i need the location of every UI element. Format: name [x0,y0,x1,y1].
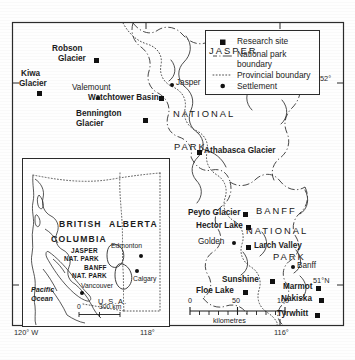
legend-label-park-boundary-line2: boundary [237,60,272,68]
marker-marmot [316,286,321,291]
inset-label-calgary: Calgary [133,276,156,283]
coord-label-118w: 118° [140,329,155,336]
scale-bar [190,307,285,315]
legend-label-settlement: Settlement [237,82,277,90]
marker-tyrwhitt [315,313,320,318]
legend-settlement-symbol [220,84,225,89]
inset-label-ocean: Ocean [31,295,53,302]
label-jasper-town: Jasper [176,79,201,87]
inset-marker-vancouver [80,291,84,295]
coord-label-51n: 51°N [313,277,330,284]
map-figure: Research site National park boundary Pro… [0,0,355,360]
inset-marker-calgary [135,269,139,273]
label-bennington-glacier-line2: Glacier [76,120,104,128]
label-robson-glacier-line2: Glacier [58,55,86,63]
label-larch-valley: Larch Valley [254,242,302,250]
marker-robson-glacier [94,58,99,63]
label-valemount: Valemount [72,84,111,92]
inset-scale-bar [79,312,120,317]
scale-tick-50: 50 [232,297,240,304]
label-banff-park-word: BANFF [256,206,297,215]
label-bennington-glacier-line1: Bennington [76,110,121,118]
scale-caption: kilometres [213,317,246,324]
label-banff-national-word: NATIONAL [246,226,308,235]
marker-golden [232,241,236,245]
label-jasper-park-word2: PARK [174,142,207,151]
label-athabasca-glacier: Athabasca Glacier [204,147,275,155]
inset-scale-label-zero: 0 [77,304,81,311]
label-kiwa-glacier-line2: Glacier [19,80,47,88]
inset-label-jasper-np-line2: NAT. PARK [64,256,99,262]
marker-floe-lake [243,290,248,295]
label-watchtower-basin: Watchtower Basin [88,94,159,102]
graticule-ticks-left [13,83,20,285]
inset-label-alberta: ALBERTA [109,220,158,229]
marker-nakiska [319,298,324,303]
legend-label-provincial-boundary: Provincial boundary [237,71,311,79]
label-sunshine: Sunshine [222,276,259,284]
inset-map: BRITISH COLUMBIA ALBERTA JASPER NAT. PAR… [22,158,170,327]
marker-kiwa-glacier [37,91,42,96]
marker-sunshine [270,279,275,284]
inset-label-vancouver: Vancouver [81,283,113,290]
marker-watchtower-basin [159,96,164,101]
coord-label-52n: 52° [320,75,331,82]
coord-label-120w: 120° W [14,329,38,336]
scale-tick-100: 100 [277,297,289,304]
label-marmot: Marmot [283,283,313,291]
coord-label-116w: 116° [274,329,289,336]
marker-larch-valley [246,245,251,250]
marker-bennington-glacier [143,118,148,123]
graticule-ticks-top [146,23,280,30]
label-robson-glacier-line1: Robson [52,45,82,53]
inset-label-jasper-np-line1: JASPER [71,248,98,254]
marker-peyto-glacier [243,212,248,217]
label-tyrwhitt: Tyrwhitt [277,310,308,318]
marker-banff [291,265,295,269]
graticule-ticks-right [337,83,344,285]
label-kiwa-glacier-line1: Kiwa [21,70,40,78]
label-jasper-park-word: JASPER [209,46,257,55]
inset-label-british: BRITISH [59,220,102,229]
inset-label-columbia: COLUMBIA [51,235,107,244]
marker-jasper [170,83,174,87]
inset-label-banff-np-line2: NAT. PARK [72,273,107,279]
inset-label-edmonton: Edmonton [111,243,142,250]
label-banff-park-word2: PARK [273,252,306,261]
label-floe-lake: Floe Lake [196,287,234,295]
inset-scale-label-value: 300 km [99,304,121,311]
label-peyto-glacier: Peyto Glacier [188,209,240,217]
inset-marker-edmonton [139,254,143,258]
scale-tick-0: 0 [188,297,192,304]
label-jasper-national-word: NATIONAL [173,109,235,118]
inset-label-pacific: Pacific [31,286,54,293]
label-golden: Golden [198,238,224,246]
label-banff-town: Banff [297,262,316,270]
inset-label-banff-np-line1: BANFF [84,265,107,271]
map-legend: Research site National park boundary Pro… [205,30,320,95]
label-hector-lake: Hector Lake [196,222,243,230]
